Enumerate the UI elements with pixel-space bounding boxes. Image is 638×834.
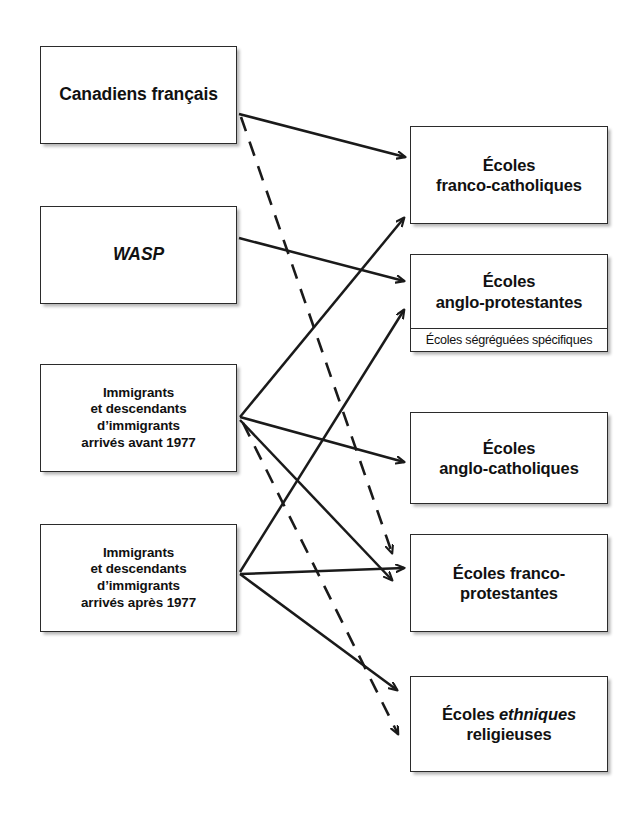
node-label-line: Écoles franco- [453,563,565,583]
node-label-line: franco-catholiques [436,175,582,195]
target-node-ecoles-franco-protestantes[interactable]: Écoles franco-protestantes [410,534,608,632]
node-label-ecoles-franco-catholiques: Écolesfranco-catholiques [430,155,588,196]
node-label-immigrants-avant-1977: Immigrantset descendantsd’immigrantsarri… [75,385,201,451]
node-label-line: anglo-catholiques [439,458,578,478]
node-label-line: anglo-protestantes [436,292,583,312]
node-label-wasp: WASP [107,244,170,266]
target-node-ecoles-anglo-protestantes[interactable]: Écolesanglo-protestantesÉcoles ségréguée… [410,254,608,352]
target-node-ecoles-anglo-catholiques[interactable]: Écolesanglo-catholiques [410,412,608,504]
node-label-canadiens-francais: Canadiens français [53,84,224,106]
edge-apres1977-to-franco-protestantes [240,568,404,574]
node-main-area: Canadiens français [41,47,236,143]
node-subtitle-ecoles-anglo-protestantes: Écoles ségréguées spécifiques [411,328,607,351]
node-main-area: Écolesfranco-catholiques [411,127,607,223]
source-node-immigrants-avant-1977[interactable]: Immigrantset descendantsd’immigrantsarri… [40,364,237,472]
node-label-ecoles-ethniques-religieuses: Écoles ethniquesreligieuses [436,704,582,745]
node-main-area: WASP [41,207,236,303]
edge-cf-to-franco-catholiques [239,114,405,157]
edge-avant1977-to-franco-catholiques [240,218,404,417]
node-label-line: Canadiens français [59,84,218,106]
target-node-ecoles-franco-catholiques[interactable]: Écolesfranco-catholiques [410,126,608,224]
target-node-ecoles-ethniques-religieuses[interactable]: Écoles ethniquesreligieuses [410,676,608,772]
edges-group [239,114,405,734]
node-main-area: Écolesanglo-catholiques [411,413,607,503]
node-main-area: Immigrantset descendantsd’immigrantsarri… [41,525,236,631]
node-label-ecoles-anglo-protestantes: Écolesanglo-protestantes [430,271,589,312]
node-label-line: Immigrants [81,385,195,402]
node-label-line: arrivés après 1977 [81,595,196,612]
edge-wasp-to-anglo-protestantes [239,238,404,281]
node-label-ecoles-anglo-catholiques: Écolesanglo-catholiques [433,438,584,479]
node-label-line: Écoles [439,438,578,458]
node-label-line: d’immigrants [81,418,195,435]
node-label-line: Écoles ethniques [442,704,576,724]
node-label-line: d’immigrants [81,578,196,595]
node-label-line: protestantes [453,583,565,603]
node-label-line: Écoles [436,155,582,175]
source-node-canadiens-francais[interactable]: Canadiens français [40,46,237,144]
node-label-immigrants-apres-1977: Immigrantset descendantsd’immigrantsarri… [75,545,202,611]
node-label-line: et descendants [81,561,196,578]
source-node-wasp[interactable]: WASP [40,206,237,304]
edge-cf-to-franco-protestantes [241,117,392,553]
node-main-area: Écoles ethniquesreligieuses [411,677,607,771]
node-label-word: ethniques [499,705,576,723]
edge-avant1977-to-ethniques [243,423,398,734]
edge-apres1977-to-ethniques [240,574,397,690]
edge-avant1977-to-franco-protestantes [240,420,392,580]
node-label-word: religieuses [466,725,551,743]
diagram-canvas: Canadiens françaisWASPImmigrantset desce… [0,0,638,834]
node-label-word: Écoles [442,705,499,723]
node-label-line: arrivés avant 1977 [81,435,195,452]
node-label-line: Écoles [436,271,583,291]
node-main-area: Écoles franco-protestantes [411,535,607,631]
node-label-line: religieuses [442,724,576,744]
node-main-area: Immigrantset descendantsd’immigrantsarri… [41,365,236,471]
node-label-ecoles-franco-protestantes: Écoles franco-protestantes [447,563,571,604]
node-main-area: Écolesanglo-protestantes [411,255,607,328]
source-node-immigrants-apres-1977[interactable]: Immigrantset descendantsd’immigrantsarri… [40,524,237,632]
node-label-line: WASP [113,244,164,266]
node-label-line: Immigrants [81,545,196,562]
node-label-line: et descendants [81,401,195,418]
